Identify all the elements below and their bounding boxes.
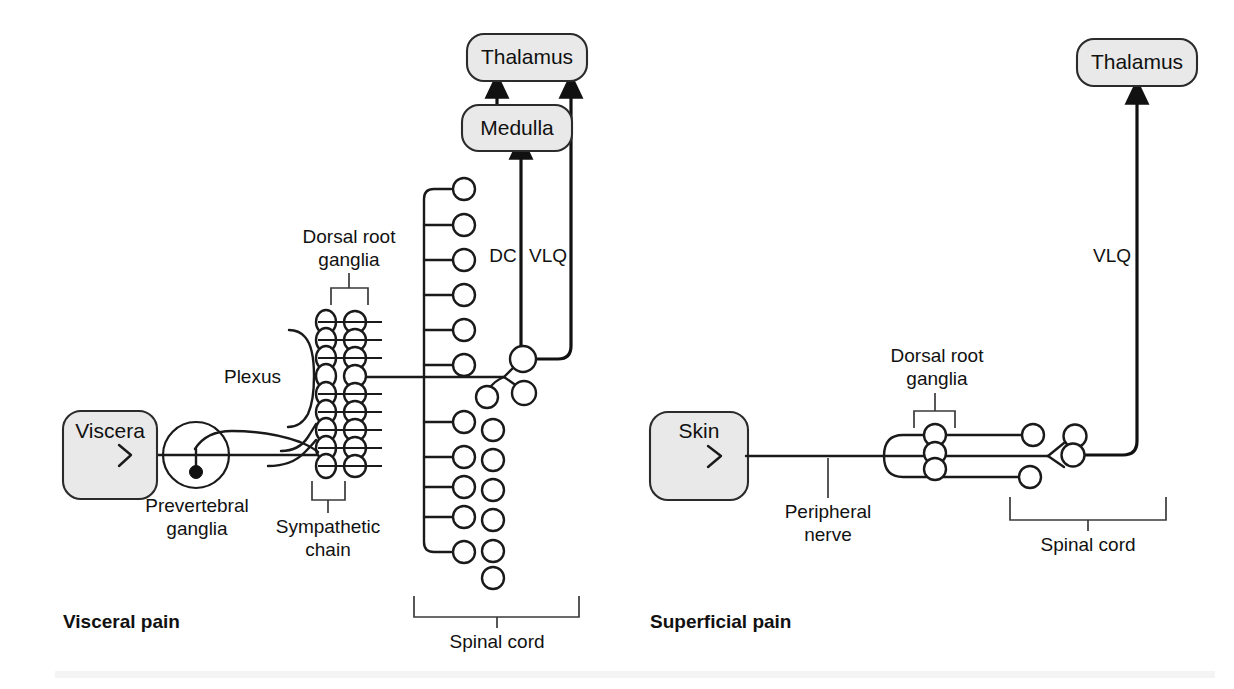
neuron-node — [453, 476, 475, 498]
interneuron-node — [476, 386, 498, 408]
prevertebral-efferent-curve — [195, 431, 318, 452]
second-order-neuron-node — [512, 381, 536, 405]
peripheral-nerve-label-line2: nerve — [804, 524, 852, 545]
prevertebral-ganglia-annotation: Prevertebral ganglia — [145, 495, 249, 539]
sympathetic-chain-label-line1: Sympathetic — [276, 516, 381, 537]
neuron-node — [453, 214, 475, 236]
pain-pathway-figure: Thalamus Medulla DC VLQ — [0, 0, 1234, 689]
drg-left-bracket — [331, 288, 368, 305]
spinal-cord-bracket-left — [414, 596, 579, 617]
spinal-cord-bracket-right — [1010, 497, 1166, 520]
neuron-node — [453, 354, 475, 376]
spinal-cord-outline-left — [424, 189, 451, 552]
spinal-cord-annotation-left: Spinal cord — [414, 596, 579, 652]
thalamus-box-right-label: Thalamus — [1091, 50, 1183, 73]
diagram-canvas: Thalamus Medulla DC VLQ — [0, 0, 1234, 689]
skin-box: Skin — [650, 412, 748, 500]
drg-right-label-line2: ganglia — [906, 368, 968, 389]
viscera-box-label: Viscera — [75, 419, 145, 442]
medulla-box-label: Medulla — [480, 116, 554, 139]
right-ascending-tract — [1082, 92, 1137, 455]
spinal-cord-lower-neurons-left — [424, 411, 475, 563]
neuron-node — [453, 284, 475, 306]
thalamus-box-left-label: Thalamus — [481, 45, 573, 68]
neuron-node — [482, 449, 504, 471]
plexus-curve-inner — [268, 440, 316, 466]
dorsal-root-ganglion — [924, 458, 946, 480]
sympathetic-chain-annotation: Sympathetic chain — [276, 481, 381, 560]
dorsal-root-loop-right — [884, 424, 1048, 488]
thalamus-box-right: Thalamus — [1077, 39, 1197, 86]
viscera-box: Viscera — [63, 411, 157, 499]
drg-left-label-line1: Dorsal root — [303, 226, 397, 247]
visceral-afferent-into-cord — [347, 346, 536, 408]
sympathetic-chain-label-line2: chain — [305, 539, 350, 560]
neuron-node — [1022, 424, 1044, 446]
projection-neuron-node — [510, 346, 536, 372]
spinal-cord-label-left: Spinal cord — [449, 631, 544, 652]
section-title-superficial-pain: Superficial pain — [650, 611, 791, 632]
drg-left-label-line2: ganglia — [318, 249, 380, 270]
sympathetic-chain-bracket — [312, 481, 345, 500]
neuron-node — [482, 567, 504, 589]
neuron-node — [453, 249, 475, 271]
drg-right-label-line1: Dorsal root — [891, 345, 985, 366]
neuron-node — [482, 509, 504, 531]
vlq-tract-label-left: VLQ — [529, 245, 567, 266]
thalamus-box-left: Thalamus — [467, 34, 587, 81]
neuron-node — [453, 506, 475, 528]
visceral-afferent-path — [156, 422, 318, 488]
projection-neuron-node-right — [1062, 444, 1085, 467]
peripheral-nerve-path: Peripheral nerve — [746, 456, 884, 545]
plexus-label: Plexus — [224, 366, 281, 387]
plexus-curve-outer — [288, 330, 314, 427]
spinal-cord-inner-column-left — [482, 419, 504, 589]
prevertebral-label-line1: Prevertebral — [145, 495, 249, 516]
footer-divider-band — [55, 671, 1215, 678]
neuron-node — [453, 178, 475, 200]
peripheral-nerve-label-line1: Peripheral — [785, 501, 872, 522]
prevertebral-label-line2: ganglia — [166, 518, 228, 539]
section-title-visceral-pain: Visceral pain — [63, 611, 180, 632]
medulla-box: Medulla — [462, 105, 572, 151]
vlq-tract-line-right — [1082, 92, 1137, 455]
skin-box-label: Skin — [679, 419, 720, 442]
neuron-node — [453, 541, 475, 563]
neuron-node — [482, 540, 504, 562]
spinal-cord-capsule-left — [424, 189, 451, 552]
neuron-node — [482, 479, 504, 501]
spinal-cord-annotation-right: Spinal cord — [1010, 497, 1166, 555]
dorsal-root-ganglia-annotation-right: Dorsal root ganglia — [891, 345, 985, 428]
neuron-node — [453, 411, 475, 433]
spinal-cord-upper-neurons-left — [424, 178, 475, 376]
neuron-node — [453, 446, 475, 468]
dorsal-root-ganglia-annotation-left: Dorsal root ganglia — [303, 226, 397, 305]
synapse-junction-right — [1048, 425, 1087, 468]
neuron-node — [453, 319, 475, 341]
vlq-tract-label-right: VLQ — [1093, 245, 1131, 266]
prevertebral-ganglion-cell-body — [190, 466, 203, 479]
neuron-node — [482, 419, 504, 441]
dc-tract-label: DC — [489, 245, 516, 266]
neuron-node — [1019, 466, 1041, 488]
spinal-cord-label-right: Spinal cord — [1040, 534, 1135, 555]
